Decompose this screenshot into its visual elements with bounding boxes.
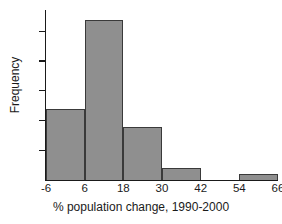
histogram-bar — [123, 127, 162, 180]
histogram-bar — [46, 109, 85, 180]
x-tick-label: 54 — [224, 183, 254, 195]
plot-area — [46, 10, 278, 180]
x-tick-label: 6 — [70, 183, 100, 195]
y-tick-mark — [39, 90, 45, 91]
y-tick-mark — [39, 31, 45, 32]
histogram-bar — [85, 20, 124, 180]
y-tick-mark — [39, 60, 45, 61]
x-tick-label: 18 — [108, 183, 138, 195]
x-tick-label: 42 — [186, 183, 216, 195]
histogram-bar — [162, 168, 201, 180]
x-tick-label: 66 — [263, 183, 282, 195]
x-axis-title: % population change, 1990-2000 — [0, 200, 282, 214]
x-tick-label: -6 — [31, 183, 61, 195]
y-tick-mark — [39, 150, 45, 151]
y-tick-mark — [39, 120, 45, 121]
histogram-bar — [239, 174, 278, 180]
x-tick-label: 30 — [147, 183, 177, 195]
y-axis-title: Frequency — [8, 35, 22, 135]
histogram-figure: 5 10 15 20 25 -6 6 18 30 42 54 66 % popu… — [0, 0, 282, 224]
